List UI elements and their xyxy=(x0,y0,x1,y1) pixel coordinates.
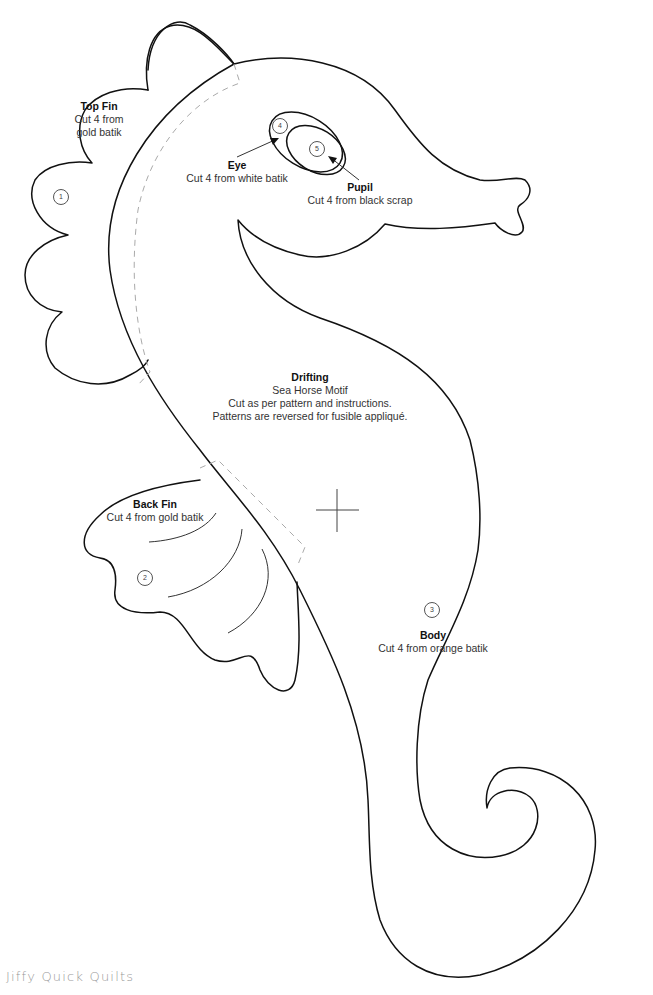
motif-line-3: Patterns are reversed for fusible appliq… xyxy=(180,410,440,423)
motif-title: Drifting xyxy=(180,371,440,384)
brand-footer: Jiffy Quick Quilts xyxy=(6,969,134,984)
top-fin-seam-guide xyxy=(134,64,240,385)
body-label: Body Cut 4 from orange batik xyxy=(372,629,494,655)
pupil-line-1: Cut 4 from black scrap xyxy=(300,194,420,207)
eye-arrow xyxy=(237,139,277,157)
piece-number-4: 4 xyxy=(272,118,288,134)
back-fin-rib-2 xyxy=(168,529,242,597)
motif-line-2: Cut as per pattern and instructions. xyxy=(180,397,440,410)
pupil-arrow-head xyxy=(328,156,337,164)
top-fin-top-lobe xyxy=(146,25,234,90)
motif-line-1: Sea Horse Motif xyxy=(180,384,440,397)
top-fin-label: Top Fin Cut 4 from gold batik xyxy=(68,100,130,139)
motif-label: Drifting Sea Horse Motif Cut as per patt… xyxy=(180,371,440,423)
top-fin-line-1: Cut 4 from xyxy=(68,113,130,126)
body-line-1: Cut 4 from orange batik xyxy=(372,642,494,655)
body-title: Body xyxy=(372,629,494,642)
back-fin-line-1: Cut 4 from gold batik xyxy=(95,511,215,524)
eye-line-1: Cut 4 from white batik xyxy=(177,172,297,185)
piece-number-3: 3 xyxy=(424,602,440,618)
back-fin-label: Back Fin Cut 4 from gold batik xyxy=(95,498,215,524)
piece-number-5: 5 xyxy=(309,141,325,157)
top-fin-title: Top Fin xyxy=(68,100,130,113)
pupil-title: Pupil xyxy=(300,181,420,194)
eye-label: Eye Cut 4 from white batik xyxy=(177,159,297,185)
pupil-label: Pupil Cut 4 from black scrap xyxy=(300,181,420,207)
back-fin-rib-3 xyxy=(228,549,268,633)
top-fin-line-2: gold batik xyxy=(68,126,130,139)
piece-number-1: 1 xyxy=(53,189,69,205)
eye-title: Eye xyxy=(177,159,297,172)
piece-number-2: 2 xyxy=(137,570,153,586)
back-fin-title: Back Fin xyxy=(95,498,215,511)
